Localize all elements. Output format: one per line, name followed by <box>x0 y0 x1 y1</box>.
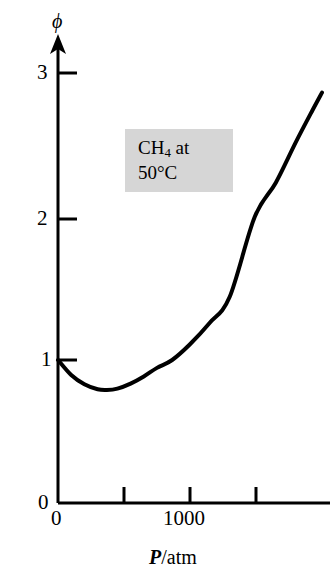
x-tick-marks <box>124 487 256 503</box>
y-tick-label-1: 1 <box>41 349 52 370</box>
y-tick-label-3: 3 <box>37 62 48 83</box>
y-tick-marks <box>58 73 77 360</box>
x-axis-title-unit: atm <box>167 546 197 568</box>
annotation-line-1: CH4 at <box>138 136 189 161</box>
x-tick-label-0: 0 <box>51 508 62 529</box>
x-axis-title: P/atm <box>149 546 197 569</box>
annotation-formula-prefix: CH <box>138 137 164 158</box>
y-tick-label-0: 0 <box>38 492 49 513</box>
plot-area <box>0 0 334 581</box>
annotation-line-2: 50°C <box>138 161 177 185</box>
y-axis-title: ϕ <box>52 10 62 33</box>
y-tick-label-2: 2 <box>37 208 48 229</box>
annotation-formula-suffix: at <box>171 137 189 158</box>
x-axis-title-variable: P <box>149 546 161 568</box>
sample-annotation-box: CH4 at 50°C <box>125 129 233 192</box>
y-axis <box>50 34 66 503</box>
fugacity-coefficient-chart: 3 2 1 0 0 1000 ϕ P/atm CH4 at 50°C <box>0 0 334 581</box>
x-tick-label-1000: 1000 <box>163 508 205 529</box>
